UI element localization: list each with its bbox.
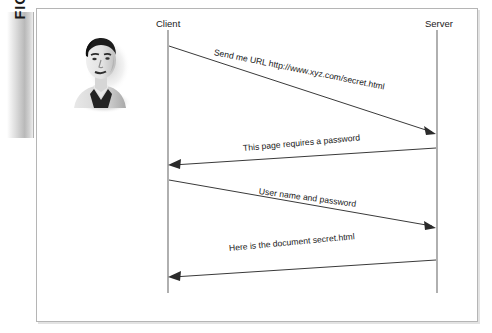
message-arrow-1 bbox=[169, 46, 436, 135]
actor-label-client: Client bbox=[156, 18, 180, 29]
message-arrow-2 bbox=[168, 148, 436, 169]
figure-page: FIGURE 7-7 bbox=[0, 0, 492, 333]
message-arrow-3 bbox=[169, 180, 436, 230]
message-arrow-4 bbox=[168, 260, 436, 281]
figure-label: FIGURE 7-7 bbox=[7, 0, 33, 38]
figure-tab: FIGURE 7-7 bbox=[7, 12, 34, 138]
actor-label-server: Server bbox=[425, 18, 453, 29]
